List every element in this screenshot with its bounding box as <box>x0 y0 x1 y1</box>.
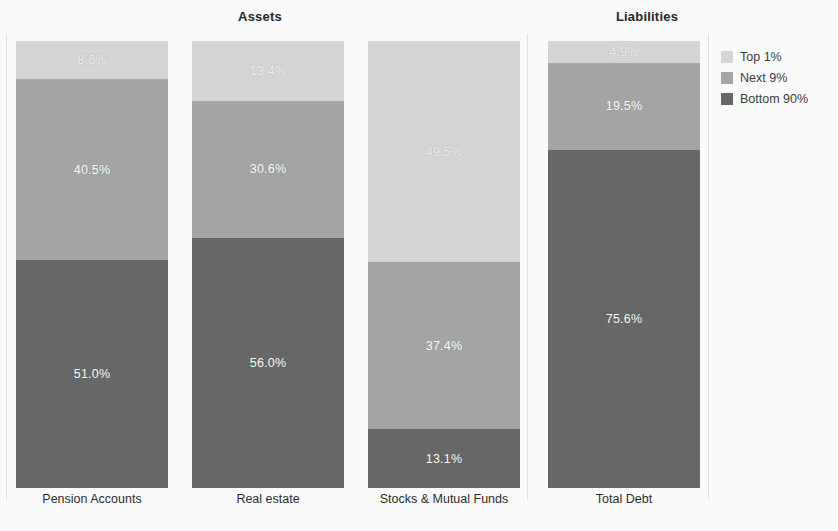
legend-item-bottom90[interactable]: Bottom 90% <box>721 90 836 108</box>
segment-top1[interactable]: 49.5% <box>368 41 520 262</box>
legend: Top 1% Next 9% Bottom 90% <box>721 48 836 111</box>
segment-value-label: 13.4% <box>250 64 286 78</box>
segment-value-label: 75.6% <box>606 312 642 326</box>
segment-bottom90[interactable]: 56.0% <box>192 238 344 488</box>
plot-area: 8.6% 40.5% 51.0% Pension Accounts 13.4% … <box>0 0 710 531</box>
legend-label-top1: Top 1% <box>740 50 782 64</box>
category-label-stocks-mutual-funds: Stocks & Mutual Funds <box>348 492 540 506</box>
stacked-bar: 13.4% 30.6% 56.0% <box>192 41 344 488</box>
segment-bottom90[interactable]: 51.0% <box>16 260 168 488</box>
segment-bottom90[interactable]: 75.6% <box>548 150 700 488</box>
stacked-bar: 8.6% 40.5% 51.0% <box>16 41 168 488</box>
legend-item-top1[interactable]: Top 1% <box>721 48 836 66</box>
category-label-real-estate: Real estate <box>172 492 364 506</box>
segment-next9[interactable]: 37.4% <box>368 262 520 429</box>
legend-item-next9[interactable]: Next 9% <box>721 69 836 87</box>
segment-bottom90[interactable]: 13.1% <box>368 429 520 488</box>
legend-label-next9: Next 9% <box>740 71 787 85</box>
segment-value-label: 4.9% <box>609 45 638 59</box>
segment-next9[interactable]: 40.5% <box>16 79 168 260</box>
segment-top1[interactable]: 4.9% <box>548 41 700 63</box>
bar-group-total-debt[interactable]: 4.9% 19.5% 75.6% Total Debt <box>548 41 700 488</box>
legend-swatch-bottom90 <box>721 93 733 105</box>
segment-value-label: 30.6% <box>250 162 286 176</box>
category-label-total-debt: Total Debt <box>528 492 720 506</box>
segment-next9[interactable]: 19.5% <box>548 63 700 150</box>
segment-value-label: 51.0% <box>74 367 110 381</box>
segment-top1[interactable]: 8.6% <box>16 41 168 79</box>
bar-group-stocks-mutual-funds[interactable]: 49.5% 37.4% 13.1% Stocks & Mutual Funds <box>368 41 520 488</box>
segment-next9[interactable]: 30.6% <box>192 101 344 238</box>
stacked-bar: 4.9% 19.5% 75.6% <box>548 41 700 488</box>
legend-swatch-top1 <box>721 51 733 63</box>
segment-value-label: 13.1% <box>426 452 462 466</box>
bar-group-pension-accounts[interactable]: 8.6% 40.5% 51.0% Pension Accounts <box>16 41 168 488</box>
stacked-bar: 49.5% 37.4% 13.1% <box>368 41 520 488</box>
legend-swatch-next9 <box>721 72 733 84</box>
chart-page: Assets Liabilities 8.6% 40.5% 51.0% Pens… <box>0 0 838 531</box>
segment-value-label: 56.0% <box>250 356 286 370</box>
segment-top1[interactable]: 13.4% <box>192 41 344 101</box>
segment-value-label: 8.6% <box>77 53 106 67</box>
segment-value-label: 40.5% <box>74 163 110 177</box>
bar-group-real-estate[interactable]: 13.4% 30.6% 56.0% Real estate <box>192 41 344 488</box>
segment-value-label: 49.5% <box>426 145 462 159</box>
legend-label-bottom90: Bottom 90% <box>740 92 808 106</box>
segment-value-label: 19.5% <box>606 99 642 113</box>
category-label-pension-accounts: Pension Accounts <box>0 492 188 506</box>
segment-value-label: 37.4% <box>426 339 462 353</box>
